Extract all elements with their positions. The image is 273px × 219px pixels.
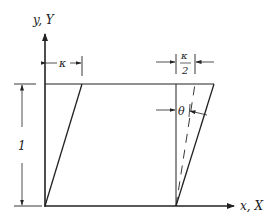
y-axis-label: y, Y [32,13,55,27]
height-label: 1 [18,139,26,153]
shear-diagram: y, Y x, X κ κ 2 1 [0,0,273,219]
half-kappa-numerator: κ [180,50,188,61]
dashed-bisector-line [176,84,195,206]
sheared-square [45,84,214,206]
half-kappa-denominator: 2 [181,65,188,76]
theta-label: θ [178,105,185,118]
kappa-label: κ [58,57,67,70]
x-axis-label: x, X [240,199,263,213]
